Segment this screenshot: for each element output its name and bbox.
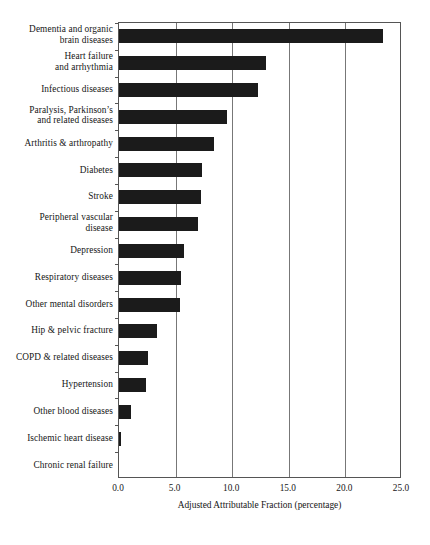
y-axis-tick	[115, 264, 119, 265]
bar	[119, 217, 198, 231]
bar-row	[119, 23, 400, 50]
bar-row	[119, 398, 400, 425]
y-axis-label: Ischemic heart disease	[0, 432, 113, 443]
y-axis-label: Chronic renal failure	[0, 459, 113, 470]
y-axis-label-line: Hypertension	[0, 379, 113, 390]
y-axis-label: Other blood diseases	[0, 406, 113, 417]
bar	[119, 432, 121, 446]
y-axis-label-line: Other blood diseases	[0, 406, 113, 417]
bar-row	[119, 130, 400, 157]
y-axis-label-line: Hip & pelvic fracture	[0, 325, 113, 336]
bar-row	[119, 452, 400, 479]
y-axis-tick	[115, 291, 119, 292]
y-axis-label: Paralysis, Parkinson’sand related diseas…	[0, 105, 113, 126]
y-axis-label-line: Respiratory diseases	[0, 272, 113, 283]
y-axis-tick	[115, 345, 119, 346]
y-axis-label-line: Paralysis, Parkinson’s	[0, 105, 113, 116]
plot-area	[118, 22, 401, 478]
y-axis-label: Arthritis & arthropathy	[0, 137, 113, 148]
y-axis-label-line: Dementia and organic	[0, 25, 113, 36]
y-axis-label: Other mental disorders	[0, 298, 113, 309]
bar	[119, 163, 202, 177]
y-axis-tick	[115, 103, 119, 104]
bar-rows	[119, 23, 400, 477]
y-axis-label-line: Diabetes	[0, 164, 113, 175]
bar-row	[119, 103, 400, 130]
y-axis-label: Respiratory diseases	[0, 272, 113, 283]
y-axis-label: Infectious diseases	[0, 84, 113, 95]
x-axis-title: Adjusted Attributable Fraction (percenta…	[118, 500, 401, 510]
y-axis-label-line: Chronic renal failure	[0, 459, 113, 470]
bar-row	[119, 238, 400, 265]
bar	[119, 83, 258, 97]
bar-row	[119, 77, 400, 104]
bar	[119, 378, 146, 392]
y-axis-category-labels: Dementia and organicbrain diseasesHeart …	[0, 22, 113, 478]
y-axis-tick	[115, 372, 119, 373]
y-axis-label-line: Other mental disorders	[0, 298, 113, 309]
bar	[119, 110, 227, 124]
y-axis-tick	[115, 425, 119, 426]
bar	[119, 351, 148, 365]
bar	[119, 190, 201, 204]
y-axis-tick	[115, 318, 119, 319]
y-axis-label: Hip & pelvic fracture	[0, 325, 113, 336]
y-axis-tick	[115, 157, 119, 158]
attributable-fraction-bar-chart: Dementia and organicbrain diseasesHeart …	[0, 0, 430, 545]
y-axis-label-line: brain diseases	[0, 35, 113, 46]
y-axis-label-line: Infectious diseases	[0, 84, 113, 95]
bar-row	[119, 184, 400, 211]
y-axis-tick	[115, 23, 119, 24]
bar-row	[119, 157, 400, 184]
y-axis-tick	[115, 130, 119, 131]
x-axis-tick-label: 10.0	[223, 482, 239, 494]
y-axis-label-line: Depression	[0, 245, 113, 256]
y-axis-label-line: Stroke	[0, 191, 113, 202]
bar-row	[119, 211, 400, 238]
y-axis-tick	[115, 77, 119, 78]
y-axis-label: Heart failureand arrhythmia	[0, 52, 113, 73]
y-axis-tick	[115, 398, 119, 399]
y-axis-label-line: Arthritis & arthropathy	[0, 137, 113, 148]
y-axis-label: Diabetes	[0, 164, 113, 175]
bar	[119, 324, 157, 338]
bar-row	[119, 345, 400, 372]
y-axis-tick	[115, 211, 119, 212]
bar-row	[119, 425, 400, 452]
y-axis-label: Stroke	[0, 191, 113, 202]
x-axis-tick-labels: 0.05.010.015.020.025.0	[0, 482, 430, 496]
bar-row	[119, 291, 400, 318]
y-axis-label-line: COPD & related diseases	[0, 352, 113, 363]
bar-row	[119, 372, 400, 399]
y-axis-tick	[115, 184, 119, 185]
bar	[119, 298, 180, 312]
y-axis-label: Hypertension	[0, 379, 113, 390]
bar-row	[119, 50, 400, 77]
bar	[119, 56, 266, 70]
y-axis-label-line: and arrhythmia	[0, 62, 113, 73]
x-axis-tick-label: 5.0	[169, 482, 181, 494]
y-axis-label: COPD & related diseases	[0, 352, 113, 363]
bar-row	[119, 318, 400, 345]
y-axis-label-line: disease	[0, 223, 113, 234]
y-axis-label: Dementia and organicbrain diseases	[0, 25, 113, 46]
y-axis-tick	[115, 452, 119, 453]
y-axis-label: Peripheral vasculardisease	[0, 213, 113, 234]
bar-row	[119, 264, 400, 291]
y-axis-tick	[115, 238, 119, 239]
x-axis-tick-label: 20.0	[336, 482, 352, 494]
bar	[119, 405, 131, 419]
y-axis-label-line: Peripheral vascular	[0, 213, 113, 224]
y-axis-label-line: Ischemic heart disease	[0, 432, 113, 443]
x-axis-tick-label: 15.0	[280, 482, 296, 494]
y-axis-label-line: Heart failure	[0, 52, 113, 63]
x-axis-tick-label: 0.0	[112, 482, 124, 494]
bar	[119, 29, 383, 43]
bar	[119, 244, 184, 258]
x-axis-tick-label: 25.0	[393, 482, 409, 494]
y-axis-label-line: and related diseases	[0, 116, 113, 127]
y-axis-tick	[115, 50, 119, 51]
bar	[119, 271, 181, 285]
y-axis-label: Depression	[0, 245, 113, 256]
bar	[119, 137, 214, 151]
